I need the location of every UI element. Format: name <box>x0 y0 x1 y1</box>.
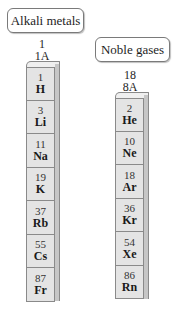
element-symbol: Rb <box>33 217 48 230</box>
element-cell-ar: 18 Ar <box>115 165 144 199</box>
atomic-number: 37 <box>35 205 46 217</box>
element-cell-na: 11 Na <box>26 134 55 168</box>
element-cell-k: 19 K <box>26 168 55 202</box>
element-symbol: Xe <box>123 248 137 261</box>
element-cell-h: 1 H <box>26 67 55 101</box>
noble-cells: 2 He 10 Ne 18 Ar 36 Kr 54 Xe 86 Rn <box>115 98 144 299</box>
element-cell-cs: 55 Cs <box>26 235 55 269</box>
element-symbol: Ar <box>123 181 137 194</box>
element-symbol: Rn <box>122 281 137 294</box>
alkali-metals-label-text: Alkali metals <box>11 13 81 29</box>
element-cell-kr: 36 Kr <box>115 199 144 233</box>
element-cell-he: 2 He <box>115 98 144 132</box>
element-symbol: Cs <box>34 250 47 263</box>
element-symbol: Na <box>33 150 48 163</box>
group-18-number: 18 8A <box>115 69 145 93</box>
group-1-number: 1 1A <box>27 38 57 62</box>
atomic-number: 54 <box>124 236 135 248</box>
alkali-cells: 1 H 3 Li 11 Na 19 K 37 Rb 55 Cs 87 Fr <box>26 67 55 302</box>
noble-gases-label: Noble gases <box>95 37 170 62</box>
noble-gases-label-text: Noble gases <box>101 42 164 58</box>
element-cell-xe: 54 Xe <box>115 232 144 266</box>
element-symbol: Ne <box>123 147 137 160</box>
element-cell-rb: 37 Rb <box>26 201 55 235</box>
element-symbol: He <box>122 114 137 127</box>
element-symbol: H <box>36 83 45 96</box>
element-cell-fr: 87 Fr <box>26 268 55 302</box>
column-side-face <box>55 64 60 301</box>
atomic-number: 87 <box>35 272 46 284</box>
element-cell-rn: 86 Rn <box>115 266 144 300</box>
element-cell-ne: 10 Ne <box>115 132 144 166</box>
element-symbol: K <box>36 183 45 196</box>
element-symbol: Li <box>35 116 46 129</box>
atomic-number: 18 <box>124 169 135 181</box>
element-symbol: Kr <box>122 214 137 227</box>
column-side-face <box>144 95 149 299</box>
alkali-metals-label: Alkali metals <box>7 8 84 33</box>
element-symbol: Fr <box>34 284 47 297</box>
atomic-number: 11 <box>35 138 46 150</box>
element-cell-li: 3 Li <box>26 101 55 135</box>
